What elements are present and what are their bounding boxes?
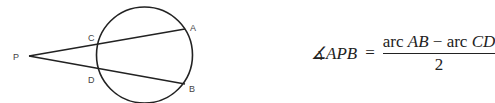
label-p: P (13, 52, 19, 62)
label-a: A (190, 23, 196, 33)
secant-pb (29, 56, 185, 84)
arc-word: arc (383, 32, 408, 51)
secant-pa (29, 29, 185, 56)
denominator: 2 (435, 55, 444, 75)
equals-sign: = (365, 43, 375, 63)
numerator: arc AB − arc CD (383, 32, 495, 52)
secant-angle-diagram: P C D A B (0, 0, 230, 103)
fraction: arc AB − arc CD 2 (383, 32, 495, 75)
arc-ab: AB (408, 32, 429, 51)
angle-formula: ∡APB = arc AB − arc CD 2 (311, 28, 495, 78)
circle (97, 7, 193, 103)
label-d: D (88, 75, 95, 85)
label-b: B (189, 84, 195, 94)
arc-cd: CD (472, 32, 495, 51)
angle-name: APB (326, 44, 357, 63)
fraction-bar (383, 53, 495, 54)
label-c: C (88, 33, 95, 43)
minus-sign: − (429, 32, 447, 51)
formula-lhs: ∡APB (311, 43, 357, 64)
angle-icon: ∡ (311, 44, 326, 63)
arc-word: arc (447, 32, 472, 51)
